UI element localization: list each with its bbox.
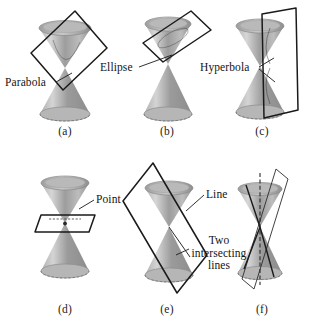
panel-e-caption: (e): [115, 303, 219, 315]
lower-nappe: [144, 64, 192, 114]
upper-rim-inner: [43, 21, 87, 32]
panel-d-caption: (d): [13, 303, 117, 315]
annotation-line: Line: [206, 188, 227, 201]
panel-c-hyperbola: (c): [210, 2, 312, 152]
annotation-two-intersecting-lines-row1: Two: [186, 234, 252, 247]
annotation-two-intersecting-lines-row3: lines: [186, 259, 252, 272]
panel-d-drawing: [13, 165, 117, 299]
panel-f-caption: (f): [210, 303, 312, 315]
annotation-parabola: Parabola: [5, 76, 46, 89]
annotation-ellipse: Ellipse: [100, 61, 133, 74]
panel-b-ellipse: (b): [115, 2, 219, 152]
annotation-point: Point: [96, 193, 121, 206]
annotation-two-intersecting-lines-row2: intersecting: [186, 247, 252, 260]
panel-f-drawing: [210, 165, 312, 299]
panel-b-caption: (b): [115, 125, 219, 137]
annotation-two-intersecting-lines: Two intersecting lines: [186, 234, 252, 272]
panel-d-point: (d): [13, 165, 117, 315]
panel-e-drawing: [115, 165, 219, 299]
annotation-hyperbola: Hyperbola: [200, 61, 249, 74]
conic-sections-figure: (a): [0, 0, 312, 323]
panel-c-caption: (c): [210, 125, 312, 137]
cutting-plane-line: [123, 163, 207, 293]
upper-rim-inner: [45, 177, 85, 188]
point-marker: [63, 222, 67, 226]
upper-rim-inner: [240, 20, 280, 31]
panel-a-caption: (a): [13, 125, 117, 137]
